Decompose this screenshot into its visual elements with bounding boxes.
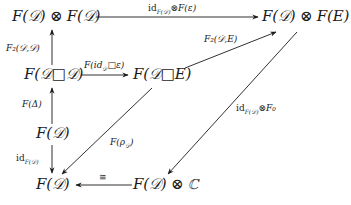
label-pre: F(id	[84, 60, 102, 70]
label-sub: F(𝒟)	[25, 158, 39, 165]
label-id: id	[148, 3, 157, 13]
label-f2-de: F₂(𝒟,E)	[204, 35, 237, 44]
node-top-right: F(𝒟) ⊗ F(E)	[262, 9, 349, 24]
node-mid-center: F(𝒟□E)	[133, 67, 191, 82]
label-rest: ⊗F₀	[259, 103, 276, 113]
node-top-left: F(𝒟) ⊗ F(𝒟)	[12, 9, 100, 24]
arrow-id-f0	[168, 32, 297, 174]
node-mid-left: F(𝒟□𝒟)	[24, 67, 83, 82]
label-f-rho: F(ρ𝒟)	[110, 138, 134, 149]
node-bottom-left: F(𝒟)	[36, 177, 69, 192]
label-pre: F(ρ	[110, 137, 125, 147]
label-f2-dd: F₂(𝒟,𝒟)	[6, 44, 40, 53]
label-sub: F(𝒟)	[157, 8, 171, 15]
label-id: id	[16, 153, 25, 163]
label-id: id	[236, 103, 245, 113]
arrow-f-rho	[62, 88, 152, 174]
label-id-left: idF(𝒟)	[16, 154, 39, 165]
node-bottom-center: F(𝒟) ⊗ ℂ	[133, 177, 198, 192]
label-post: □ε)	[107, 60, 124, 70]
label-top-arrow: idF(𝒟)⊗F(ε)	[148, 4, 196, 15]
label-iso: ≅	[99, 173, 107, 182]
label-f-delta: F(Δ)	[22, 100, 42, 109]
label-f-id-eps: F(id𝒟□ε)	[84, 61, 124, 72]
label-post: )	[130, 137, 134, 147]
label-id-f0: idF(𝒟)⊗F₀	[236, 104, 276, 115]
label-rest: ⊗F(ε)	[171, 3, 197, 13]
node-lower-left: F(𝒟)	[36, 126, 69, 141]
label-sub: F(𝒟)	[245, 108, 259, 115]
